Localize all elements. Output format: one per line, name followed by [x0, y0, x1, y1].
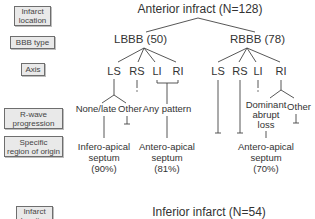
rwave-rbbb-other: Other	[287, 101, 311, 112]
lbbb-axis-li: LI	[152, 65, 161, 77]
edge-ls-none	[102, 95, 114, 103]
lbbb-axis-rs: RS	[129, 65, 144, 77]
rbbb-axis-ri: RI	[276, 65, 287, 77]
region-antero-apical-rbbb-2: septum	[250, 152, 281, 163]
lbbb-axis-ls: LS	[107, 65, 120, 77]
edge-lbbb-ri	[144, 48, 176, 62]
region-antero-apical-lbbb-2: septum	[151, 152, 182, 163]
inferior-title: Inferior infarct (N=54)	[152, 205, 266, 219]
rwave-other: Other	[118, 103, 142, 114]
decision-tree: Anterior infract (N=128) LBBB (50) RBBB …	[0, 0, 315, 219]
edge-ls-other	[114, 95, 126, 103]
rwave-none-late: None/late	[76, 103, 117, 114]
edge-root-lbbb	[146, 18, 198, 32]
terminal-dot-rbbb	[257, 90, 258, 91]
lbbb-label: LBBB (50)	[114, 33, 167, 45]
edge-lbbb-ls	[118, 48, 144, 62]
lbbb-axis-ri: RI	[173, 65, 184, 77]
region-infero-apical-2: septum	[88, 152, 119, 163]
region-infero-apical-1: Infero-apical	[78, 141, 130, 152]
rwave-any-pattern: Any pattern	[143, 103, 192, 114]
rbbb-axis-li: LI	[253, 65, 262, 77]
rbbb-axis-rs: RS	[232, 65, 247, 77]
region-antero-apical-lbbb-1: Antero-apical	[139, 141, 195, 152]
edge-ri-dominant	[270, 90, 281, 98]
edge-ri-other	[281, 90, 294, 98]
rbbb-label: RBBB (78)	[230, 33, 285, 45]
edge-root-rbbb	[198, 18, 255, 32]
rbbb-axis-ls: LS	[211, 65, 224, 77]
region-antero-apical-rbbb-pct: (70%)	[253, 163, 278, 174]
bracket-li-ri	[157, 80, 178, 83]
region-antero-apical-rbbb-1: Antero-apical	[238, 141, 294, 152]
rwave-loss: loss	[258, 119, 275, 130]
region-antero-apical-lbbb-pct: (81%)	[154, 163, 179, 174]
region-infero-apical-pct: (90%)	[91, 163, 116, 174]
terminal-dot	[136, 90, 137, 91]
anterior-title: Anterior infract (N=128)	[137, 2, 262, 16]
